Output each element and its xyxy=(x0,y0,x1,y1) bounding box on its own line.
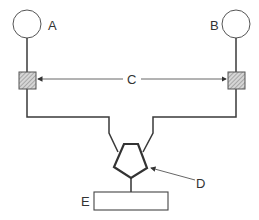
label-e: E xyxy=(81,194,90,209)
component-e: E xyxy=(81,192,168,210)
hatched-square-left xyxy=(19,72,36,89)
pentagon-d xyxy=(114,144,147,178)
label-c: C xyxy=(127,72,136,87)
label-a: A xyxy=(48,18,57,33)
component-b: B xyxy=(210,10,250,38)
pointer-c: C xyxy=(38,72,226,87)
box-e xyxy=(94,192,168,210)
component-a: A xyxy=(13,10,57,38)
label-d: D xyxy=(196,176,205,191)
circle-a xyxy=(13,10,41,38)
circle-b xyxy=(222,10,250,38)
right-pipe-lower xyxy=(143,89,236,152)
arrow-d xyxy=(151,168,195,180)
diagram: A B C D E xyxy=(0,0,259,220)
pointer-d: D xyxy=(151,168,205,191)
hatched-square-right xyxy=(228,72,245,89)
left-pipe-lower xyxy=(27,89,118,152)
label-b: B xyxy=(210,18,219,33)
